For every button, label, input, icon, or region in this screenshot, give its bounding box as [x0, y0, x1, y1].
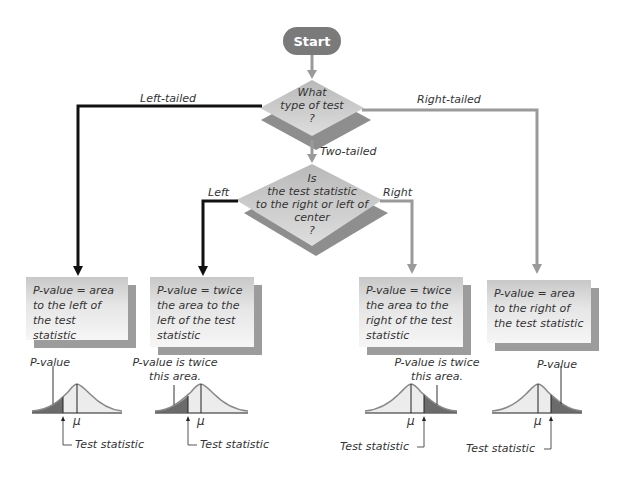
decision2-line: to the right or left of [240, 198, 384, 211]
test-statistic-label-4: Test statistic [466, 442, 535, 455]
mu-label-2: μ [197, 414, 205, 428]
test-statistic-label-1: Test statistic [75, 438, 144, 451]
branch-label-left: Left [208, 186, 229, 199]
test-statistic-label-3: Test statistic [340, 440, 409, 453]
branch-label-right: Right [383, 186, 412, 199]
result-box-right-tailed: P-value = area to the right of the test … [487, 280, 591, 343]
decision2-line: center [240, 211, 384, 224]
decision2-line: Is [240, 172, 384, 185]
curve1-label: P-value [30, 356, 70, 370]
curve2-label: P-value is twice this area. [130, 356, 220, 384]
decision1-text: What type of test ? [262, 86, 362, 125]
branch-label-right-tailed: Right-tailed [417, 93, 481, 106]
normal-curve-4 [492, 366, 582, 449]
mu-label-4: μ [534, 414, 542, 428]
normal-curve-1 [32, 366, 122, 445]
decision1-line: What [262, 86, 362, 99]
decision2-text: Is the test statistic to the right or le… [240, 172, 384, 237]
curve4-label: P-value [537, 358, 577, 372]
result-box-two-tailed-right: P-value = twice the area to the right of… [359, 277, 463, 347]
start-node: Start [283, 27, 341, 55]
result-box-left-tailed: P-value = area to the left of the test s… [26, 277, 128, 340]
branch-label-two-tailed: Two-tailed [320, 145, 376, 158]
flowchart-connectors [0, 0, 632, 477]
decision2-line: ? [240, 224, 384, 237]
branch-label-left-tailed: Left-tailed [140, 92, 196, 105]
decision2-line: the test statistic [240, 185, 384, 198]
curve3-label: P-value is twice this area. [392, 356, 482, 384]
mu-label-1: μ [73, 414, 81, 428]
test-statistic-label-2: Test statistic [200, 438, 269, 451]
decision1-line: ? [262, 112, 362, 125]
mu-label-3: μ [407, 414, 415, 428]
result-box-two-tailed-left: P-value = twice the area to the left of … [150, 277, 254, 347]
decision1-line: type of test [262, 99, 362, 112]
